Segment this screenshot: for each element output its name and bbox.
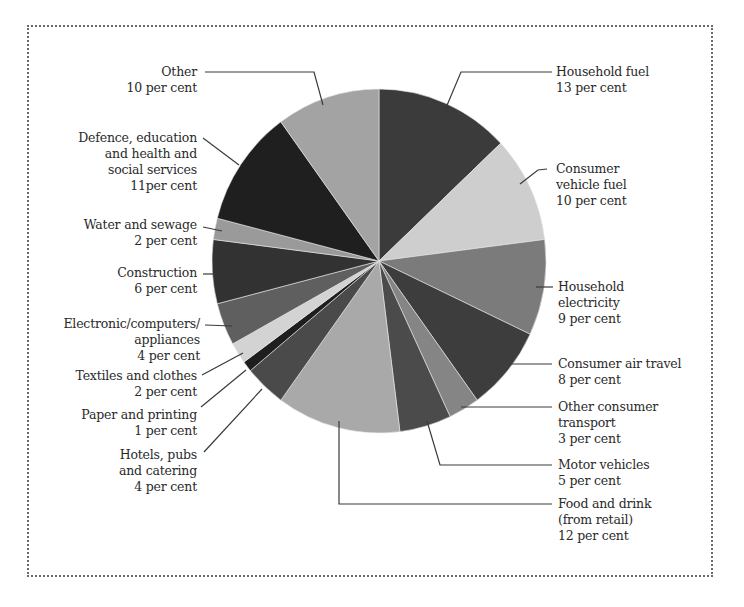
leader-line-hotels <box>204 389 262 452</box>
label-consumer-vehicle-fuel: Consumer vehicle fuel 10 per cent <box>556 161 627 209</box>
leader-line-paper <box>201 370 246 407</box>
label-defence: Defence, education and health and social… <box>78 130 197 194</box>
leader-line-textiles <box>202 353 243 375</box>
label-food-and-drink: Food and drink (from retail) 12 per cent <box>558 496 651 544</box>
label-construction: Construction 6 per cent <box>117 265 197 297</box>
leader-line-food-and-drink <box>339 421 552 504</box>
leader-line-defence <box>203 138 239 165</box>
label-consumer-air-travel: Consumer air travel 8 per cent <box>558 356 681 388</box>
label-electronic: Electronic/computers/ appliances 4 per c… <box>63 316 200 364</box>
label-textiles: Textiles and clothes 2 per cent <box>75 368 197 400</box>
label-other: Other 10 per cent <box>127 64 198 96</box>
label-water: Water and sewage 2 per cent <box>84 217 197 249</box>
label-household-fuel: Household fuel 13 per cent <box>556 64 649 96</box>
label-motor-vehicles: Motor vehicles 5 per cent <box>558 457 649 489</box>
leader-line-motor-vehicles <box>427 421 552 465</box>
pie-slices <box>212 89 546 433</box>
label-paper: Paper and printing 1 per cent <box>81 407 197 439</box>
label-household-electricity: Household electricity 9 per cent <box>558 279 624 327</box>
label-other-consumer-transport: Other consumer transport 3 per cent <box>558 399 658 447</box>
leader-line-other <box>205 72 323 105</box>
label-hotels: Hotels, pubs and catering 4 per cent <box>119 447 197 495</box>
